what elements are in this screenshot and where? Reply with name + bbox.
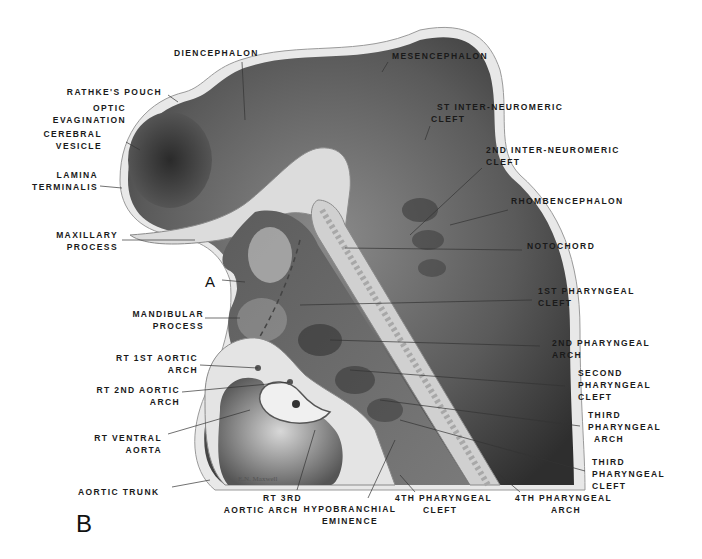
point-marker-a: A xyxy=(205,273,215,290)
label-rt-ventral-aorta: RT VENTRALAORTA xyxy=(70,432,162,456)
label-third-pharyngeal-arch: THIRDPHARYNGEALARCH xyxy=(588,409,661,445)
label-mandibular-process: MANDIBULARPROCESS xyxy=(100,308,204,332)
label-rhombencephalon: RHOMBENCEPHALON xyxy=(511,195,624,207)
label-first-inter-neuromeric-cleft: ST INTER-NEUROMERICCLEFT xyxy=(437,101,563,125)
label-hypobranchial-eminence: HYPOBRANCHIALEMINENCE xyxy=(300,503,400,527)
panel-letter: B xyxy=(76,510,92,538)
label-rt-third-aortic-arch: RT 3RDAORTIC ARCH xyxy=(218,492,304,516)
label-second-pharyngeal-arch: 2ND PHARYNGEALARCH xyxy=(552,337,650,361)
label-mesencephalon: MESENCEPHALON xyxy=(392,50,488,62)
label-maxillary-process: MAXILLARYPROCESS xyxy=(30,229,118,253)
cerebral-vesicle-shape xyxy=(128,112,212,208)
label-second-inter-neuromeric-cleft: 2ND INTER-NEUROMERICCLEFT xyxy=(486,144,620,168)
label-second-pharyngeal-cleft: SECONDPHARYNGEALCLEFT xyxy=(578,367,651,403)
label-diencephalon: DIENCEPHALON xyxy=(174,47,259,59)
label-cerebral-vesicle: CEREBRALVESICLE xyxy=(30,128,102,152)
label-notochord: NOTOCHORD xyxy=(527,240,595,252)
label-fourth-pharyngeal-cleft: 4TH PHARYNGEALCLEFT xyxy=(395,492,492,516)
embryo-diagram: E.N. Maxwell DIENCEPHALON MESENCEPHALON … xyxy=(0,0,702,559)
label-optic-evagination: OPTICEVAGINATION xyxy=(40,102,126,126)
label-aortic-trunk: AORTIC TRUNK xyxy=(78,486,160,498)
artist-signature: E.N. Maxwell xyxy=(238,475,278,483)
label-rathkes-pouch: RATHKE'S POUCH xyxy=(50,86,162,98)
label-fourth-pharyngeal-arch: 4TH PHARYNGEALARCH xyxy=(515,492,612,516)
label-third-pharyngeal-cleft: THIRDPHARYNGEALCLEFT xyxy=(592,456,665,492)
label-lamina-terminalis: LAMINATERMINALIS xyxy=(20,169,98,193)
label-first-pharyngeal-cleft: 1ST PHARYNGEALCLEFT xyxy=(538,285,635,309)
label-rt-first-aortic-arch: RT 1ST AORTICARCH xyxy=(80,352,198,376)
label-rt-second-aortic-arch: RT 2ND AORTICARCH xyxy=(70,384,180,408)
